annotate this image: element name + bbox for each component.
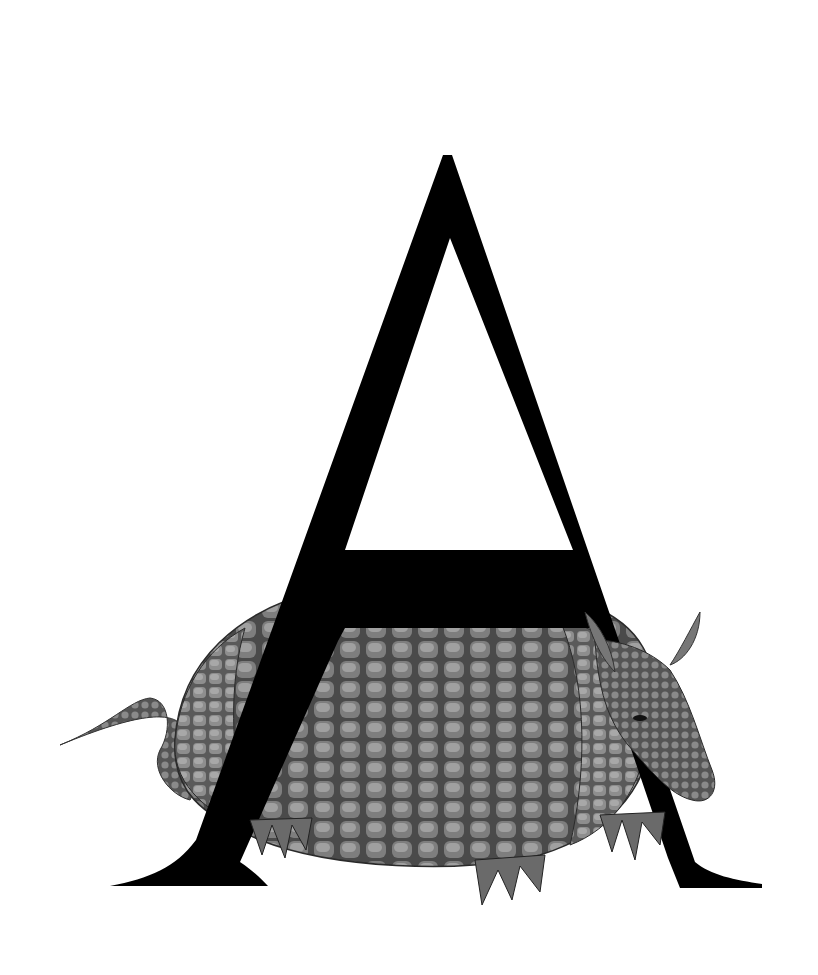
illustration-canvas — [0, 0, 818, 975]
armadillo-ear-right — [670, 612, 700, 665]
armadillo-eye — [633, 715, 647, 721]
